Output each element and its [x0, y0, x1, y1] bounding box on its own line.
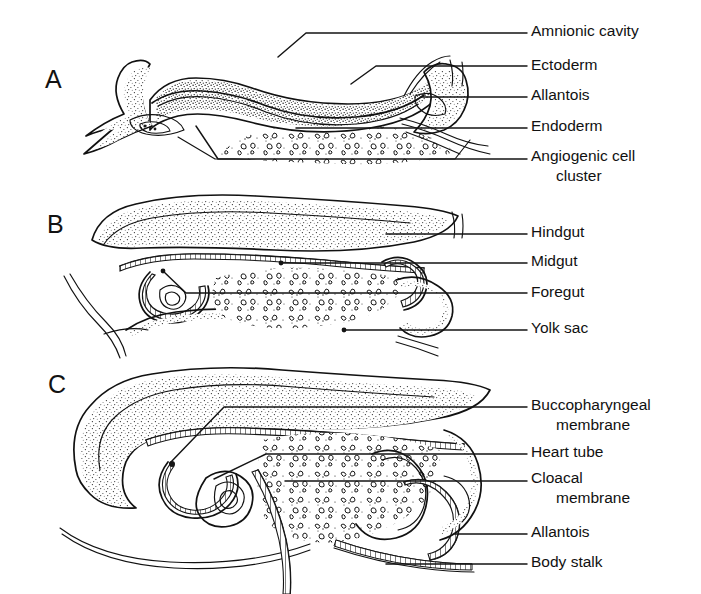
- label-amnionic-cavity: Amnionic cavity: [531, 22, 639, 39]
- panel-c-ventral-wall-2: [62, 534, 310, 569]
- leader-line-amnionic-cavity: [278, 33, 527, 57]
- label-buccopharyngeal-membrane: Buccopharyngeal: [531, 396, 651, 413]
- label-body-stalk: Body stalk: [531, 553, 603, 570]
- label-yolk-sac: Yolk sac: [531, 319, 588, 336]
- leader-dot-midgut: [279, 261, 284, 266]
- label-heart-tube: Heart tube: [531, 443, 603, 460]
- label-ectoderm: Ectoderm: [531, 56, 597, 73]
- panel-c-mesenchyme-field: [257, 433, 440, 543]
- panel-letters-layer: ABC: [45, 65, 66, 398]
- label-angiogenic-cell-cluster: Angiogenic cell: [531, 147, 635, 164]
- label-cloacal-membrane: Cloacal: [531, 469, 583, 486]
- label-foregut: Foregut: [531, 283, 585, 300]
- label-allantois: Allantois: [531, 86, 590, 103]
- panel-a-blood-island-2: [154, 128, 157, 131]
- embryology-figure: Amnionic cavityEctodermAllantoisEndoderm…: [0, 0, 701, 594]
- leader-dot-yolk-sac: [342, 328, 347, 333]
- label-midgut: Midgut: [531, 252, 578, 269]
- panel-c-ventral-wall-1: [60, 528, 310, 563]
- panel-letter-a: A: [45, 65, 62, 93]
- leader-dot-foregut: [161, 269, 166, 274]
- label-angiogenic-cell-cluster-line2: cluster: [556, 167, 602, 184]
- panel-b-left-stalk-1: [64, 276, 120, 358]
- panel-b-mesenchyme-field: [212, 268, 406, 328]
- panel-a-drawing: [84, 56, 490, 164]
- label-allantois-c: Allantois: [531, 523, 590, 540]
- panel-b-left-stalk-2: [70, 274, 126, 356]
- panel-a-blood-island-1: [143, 124, 146, 127]
- panel-b-right-tail-1: [398, 336, 438, 348]
- panel-letter-c: C: [48, 370, 66, 398]
- label-hindgut: Hindgut: [531, 223, 585, 240]
- labels-layer: Amnionic cavityEctodermAllantoisEndoderm…: [531, 22, 651, 570]
- label-endoderm: Endoderm: [531, 117, 603, 134]
- panel-b-right-tail-2: [396, 342, 438, 356]
- label-buccopharyngeal-membrane-line2: membrane: [556, 416, 630, 433]
- panel-letter-b: B: [47, 210, 64, 238]
- panel-b-drawing: [64, 195, 463, 358]
- figure-canvas: Amnionic cavityEctodermAllantoisEndoderm…: [0, 0, 701, 594]
- label-cloacal-membrane-line2: membrane: [556, 489, 630, 506]
- panel-b-heart-inner: [165, 292, 179, 305]
